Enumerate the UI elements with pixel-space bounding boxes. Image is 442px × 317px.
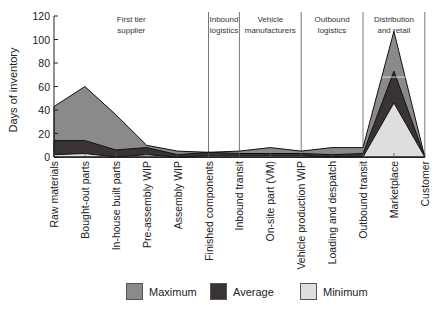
x-tick-label: Inbound transit — [233, 161, 245, 231]
chart-legend: Maximum Average Minimum — [0, 283, 442, 305]
legend-swatch-average — [210, 283, 227, 300]
x-tick-label: Bought-out parts — [79, 161, 91, 239]
x-tick-label: In-house built parts — [110, 161, 122, 250]
stage-label: supplier — [117, 26, 145, 35]
stage-label: manufacturers — [245, 26, 296, 35]
legend-item-minimum: Minimum — [300, 283, 368, 300]
inventory-area-chart: 020406080100120 Raw materialsBought-out … — [0, 0, 442, 280]
y-axis-title: Days of inventory — [7, 47, 19, 132]
x-tick-label: Marketplace — [388, 161, 400, 218]
legend-label: Minimum — [323, 286, 368, 298]
stage-label: First tier — [117, 15, 146, 24]
stage-label: and retail — [377, 26, 410, 35]
stage-label: logistics — [318, 26, 346, 35]
x-tick-label: Customer — [419, 161, 431, 207]
legend-label: Maximum — [149, 286, 197, 298]
legend-item-average: Average — [210, 283, 274, 300]
x-tick-label: Pre-assembly WIP — [141, 161, 153, 248]
x-tick-label: Loading and despatch — [326, 161, 338, 264]
x-tick-label: Outbound transit — [357, 161, 369, 239]
x-tick-label: Assembly WIP — [172, 161, 184, 229]
x-tick-label: Vehicle production WIP — [295, 161, 307, 270]
x-tick-label: On-site part (VM) — [264, 161, 276, 242]
legend-swatch-minimum — [300, 283, 317, 300]
stage-label: logistics — [210, 26, 238, 35]
x-tick-label: Raw materials — [48, 161, 60, 228]
stage-labels: First tiersupplierInboundlogisticsVehicl… — [117, 15, 414, 35]
y-tick-label: 40 — [38, 104, 50, 116]
legend-item-maximum: Maximum — [126, 283, 197, 300]
legend-label: Average — [233, 286, 274, 298]
y-tick-label: 60 — [38, 81, 50, 93]
y-tick-label: 80 — [38, 57, 50, 69]
stage-label: Distribution — [374, 15, 414, 24]
x-axis-labels: Raw materialsBought-out partsIn-house bu… — [48, 161, 431, 270]
y-tick-label: 100 — [32, 34, 50, 46]
y-tick-label: 20 — [38, 128, 50, 140]
legend-swatch-maximum — [126, 283, 143, 300]
y-tick-label: 120 — [32, 10, 50, 22]
stage-label: Vehicle — [257, 15, 283, 24]
stage-label: Outbound — [315, 15, 350, 24]
x-tick-label: Finished components — [203, 161, 215, 261]
stage-label: Inbound — [209, 15, 238, 24]
